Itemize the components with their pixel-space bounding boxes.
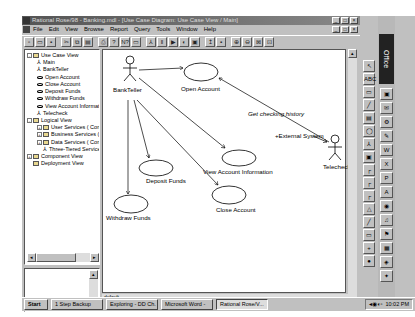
menu-edit[interactable]: Edit bbox=[49, 25, 59, 34]
tree-item-data-services[interactable]: +Data Services ( Compo bbox=[27, 139, 100, 146]
task-button[interactable]: Exploring - DD Ch. bbox=[106, 299, 158, 310]
tree-item-telecheck[interactable]: ⅄Telecheck bbox=[27, 110, 100, 117]
menu-help[interactable]: Help bbox=[204, 25, 216, 34]
scroll-right-icon[interactable]: ▸ bbox=[90, 253, 99, 262]
office-app-icon[interactable]: ◈ bbox=[380, 256, 393, 268]
diagram-icon[interactable]: ▭ bbox=[131, 37, 141, 47]
actor-icon[interactable]: ⅄ bbox=[363, 138, 375, 150]
tree-item-open-account[interactable]: Open Account bbox=[27, 74, 100, 81]
tree-item-main[interactable]: ⅄Main bbox=[27, 59, 100, 66]
selection-icon[interactable]: ↖ bbox=[363, 60, 375, 72]
tree-item-bankteller[interactable]: ⅄BankTeller bbox=[27, 66, 100, 73]
collapse-icon[interactable]: - bbox=[27, 118, 32, 123]
close-button[interactable]: × bbox=[350, 17, 358, 24]
open-icon[interactable]: ▭ bbox=[35, 37, 45, 47]
save-icon[interactable]: ▪ bbox=[46, 37, 56, 47]
print-icon[interactable]: ⎙ bbox=[98, 37, 108, 47]
tray-icons[interactable]: ◂◉◐▫ bbox=[369, 300, 382, 309]
doc-close-button[interactable]: × bbox=[350, 26, 358, 33]
office-app-icon[interactable]: ✎ bbox=[380, 130, 393, 142]
zoom-in-icon[interactable]: ⊕ bbox=[231, 37, 241, 47]
office-app-icon[interactable]: X bbox=[380, 158, 393, 170]
start-icon[interactable]: + bbox=[363, 242, 375, 254]
tree-item-three-tiered-service[interactable]: ⅄Three-Tiered Service M bbox=[27, 146, 100, 153]
usecase-deposit-funds[interactable] bbox=[139, 160, 173, 176]
unidirectional-icon[interactable]: ┌ bbox=[363, 177, 375, 189]
office-app-icon[interactable]: ◉ bbox=[380, 200, 393, 212]
menu-window[interactable]: Window bbox=[176, 25, 197, 34]
tree-item-logical-view[interactable]: -Logical View bbox=[27, 117, 100, 124]
start-button[interactable]: Start bbox=[24, 299, 48, 310]
help-icon[interactable]: ? bbox=[109, 37, 119, 47]
maximize-button[interactable]: □ bbox=[341, 17, 349, 24]
scroll-left-icon[interactable]: ◂ bbox=[27, 253, 36, 262]
context-help-icon[interactable]: N? bbox=[120, 37, 130, 47]
menu-file[interactable]: File bbox=[33, 25, 43, 34]
use-case-diagram[interactable]: BankTeller Telecheck Open Account View A… bbox=[102, 49, 346, 293]
usecase-open-account[interactable] bbox=[184, 63, 218, 81]
copy-icon[interactable]: ⧉ bbox=[72, 37, 82, 47]
office-app-icon[interactable]: ▣ bbox=[380, 88, 393, 100]
menu-view[interactable]: View bbox=[65, 25, 78, 34]
office-app-icon[interactable]: ✉ bbox=[380, 102, 393, 114]
actor-bankteller[interactable] bbox=[123, 56, 137, 81]
menu-tools[interactable]: Tools bbox=[156, 25, 170, 34]
office-app-icon[interactable]: A bbox=[380, 186, 393, 198]
note-icon[interactable]: ▭ bbox=[363, 86, 375, 98]
tree-item-user-services[interactable]: +User Services ( Compo bbox=[27, 124, 100, 131]
expand-icon[interactable]: + bbox=[37, 140, 42, 145]
office-bar-title[interactable]: Office bbox=[379, 34, 394, 84]
usecase-close-account[interactable] bbox=[212, 186, 246, 204]
usecase-view-account-information[interactable] bbox=[222, 150, 256, 166]
browser-horizontal-scrollbar[interactable]: ◂ ▸ bbox=[27, 253, 99, 262]
assoc-bankteller-open-account[interactable] bbox=[139, 68, 183, 70]
text-icon[interactable]: ABC bbox=[363, 73, 375, 85]
fit-icon[interactable]: ⊠ bbox=[253, 37, 263, 47]
realize-icon[interactable]: ╱ bbox=[363, 216, 375, 228]
tree-item-withdraw-funds[interactable]: Withdraw Funds bbox=[27, 95, 100, 102]
actor-telecheck[interactable] bbox=[328, 135, 342, 160]
scroll-up-icon[interactable]: ▴ bbox=[89, 270, 98, 279]
expand-icon[interactable]: + bbox=[27, 154, 32, 159]
paste-icon[interactable]: ▤ bbox=[83, 37, 93, 47]
cut-icon[interactable]: ✂ bbox=[61, 37, 71, 47]
zoom-out-icon[interactable]: ⊖ bbox=[242, 37, 252, 47]
association-icon[interactable]: ┌ bbox=[363, 164, 375, 176]
dependency-icon[interactable]: ┌ bbox=[363, 190, 375, 202]
menu-query[interactable]: Query bbox=[134, 25, 150, 34]
class-icon[interactable]: ⅄ bbox=[146, 37, 156, 47]
menu-report[interactable]: Report bbox=[110, 25, 128, 34]
new-icon[interactable]: ▫ bbox=[24, 37, 34, 47]
tree-item-deployment-view[interactable]: Deployment View bbox=[27, 160, 100, 167]
tree-item-use-case-view[interactable]: -Use Case View bbox=[27, 52, 100, 59]
task-button-active[interactable]: Rational Rose/V... bbox=[216, 299, 268, 310]
deployment-icon[interactable]: ▣ bbox=[190, 37, 200, 47]
state-icon[interactable]: ▭ bbox=[363, 229, 375, 241]
office-app-icon[interactable]: ⚑ bbox=[380, 228, 393, 240]
browse-icon[interactable]: ‖ bbox=[157, 37, 167, 47]
package-icon[interactable]: ▤ bbox=[363, 112, 375, 124]
tree-item-deposit-funds[interactable]: Deposit Funds bbox=[27, 88, 100, 95]
office-app-icon[interactable]: W bbox=[380, 144, 393, 156]
sequence-icon[interactable]: ▶ bbox=[168, 37, 178, 47]
tree-item-business-services[interactable]: +Business Services ( Co bbox=[27, 131, 100, 138]
anchor-icon[interactable]: ╱ bbox=[363, 99, 375, 111]
office-app-icon[interactable]: ♫ bbox=[380, 214, 393, 226]
office-app-icon[interactable]: ⚙ bbox=[380, 116, 393, 128]
expand-icon[interactable]: + bbox=[37, 125, 42, 130]
task-button[interactable]: 1 Step Backup bbox=[51, 299, 103, 310]
menu-browse[interactable]: Browse bbox=[84, 25, 104, 34]
generalization-icon[interactable]: △ bbox=[363, 203, 375, 215]
doc-minimize-button[interactable]: _ bbox=[332, 26, 340, 33]
previous-icon[interactable]: ▪ bbox=[216, 37, 226, 47]
tree-item-view-account-information[interactable]: View Account Informat bbox=[27, 103, 100, 110]
tree-item-component-view[interactable]: +Component View bbox=[27, 153, 100, 160]
diagram-vertical-scrollbar[interactable]: ▴ ▾ bbox=[348, 49, 357, 307]
scroll-up-icon[interactable]: ▴ bbox=[348, 49, 357, 58]
usecase-icon[interactable]: ◯ bbox=[363, 125, 375, 137]
parent-icon[interactable]: ↥ bbox=[205, 37, 215, 47]
collapse-icon[interactable]: - bbox=[27, 53, 32, 58]
office-app-icon[interactable]: P bbox=[380, 172, 393, 184]
office-app-icon[interactable]: ✦ bbox=[380, 270, 393, 282]
class-icon[interactable]: ▣ bbox=[363, 151, 375, 163]
